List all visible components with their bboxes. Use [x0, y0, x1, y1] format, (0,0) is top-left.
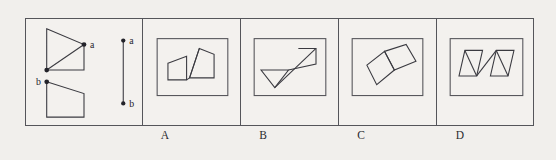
- upper-shape-diagonal: [47, 45, 84, 71]
- label-segment-a: a: [129, 35, 134, 46]
- option-c-drawing: [339, 19, 436, 125]
- option-a-right-diagonal: [190, 48, 200, 77]
- label-segment-b: b: [129, 98, 134, 109]
- option-a-drawing: [143, 19, 240, 125]
- option-b-diagonal-connector: [275, 48, 316, 87]
- question-panel-drawing: a b a b: [26, 19, 142, 125]
- lower-shape-outline: [47, 82, 84, 117]
- option-label-a: A: [145, 129, 185, 141]
- label-a-upper: a: [90, 39, 95, 50]
- option-panel-b[interactable]: [240, 19, 338, 125]
- option-label-c: C: [341, 129, 381, 141]
- upper-shape-outline: [47, 29, 84, 70]
- option-c-lower-parallelogram: [367, 51, 394, 84]
- option-d-right-diagonal: [496, 50, 508, 76]
- option-d-left-diagonal: [465, 50, 477, 76]
- label-b-lower: b: [36, 76, 41, 87]
- option-panel-a[interactable]: [142, 19, 240, 125]
- option-label-b: B: [243, 129, 283, 141]
- option-panel-c[interactable]: [338, 19, 436, 125]
- option-d-drawing: [437, 19, 535, 125]
- option-c-inner-box: [352, 39, 423, 96]
- option-a-right-quad: [190, 48, 215, 77]
- option-b-inner-box: [254, 39, 326, 96]
- point-a-upper-marker: [82, 42, 87, 47]
- option-c-upper-parallelogram: [385, 45, 416, 71]
- question-panel: a b a b: [26, 19, 142, 125]
- segment-endpoint-a-marker: [121, 38, 125, 42]
- point-b-lower-marker: [44, 79, 49, 84]
- option-a-left-quad: [168, 56, 187, 80]
- option-label-d: D: [440, 129, 480, 141]
- option-b-drawing: [241, 19, 338, 125]
- segment-endpoint-b-marker: [121, 101, 125, 105]
- figure-root: a b a b: [0, 0, 556, 160]
- option-panel-d[interactable]: [436, 19, 535, 125]
- main-frame: a b a b: [25, 18, 534, 126]
- point-corner-marker: [44, 68, 49, 73]
